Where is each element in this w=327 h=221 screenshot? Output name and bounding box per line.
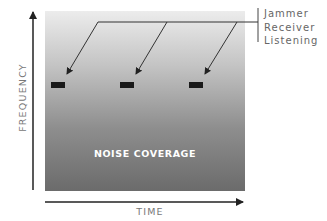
legend-line-2: Receiver	[264, 21, 318, 35]
y-axis-label: FREQUENCY	[17, 63, 28, 133]
legend-line-1: Jammer	[264, 7, 318, 21]
pointer-arrow-3	[205, 22, 237, 74]
x-axis-label: TIME	[125, 206, 175, 217]
noise-coverage-label: NOISE COVERAGE	[45, 148, 245, 159]
pointer-arrow-2	[136, 22, 167, 74]
legend: Jammer Receiver Listening	[264, 7, 318, 48]
pointer-arrow-1	[67, 22, 98, 74]
legend-line-3: Listening	[264, 34, 318, 48]
